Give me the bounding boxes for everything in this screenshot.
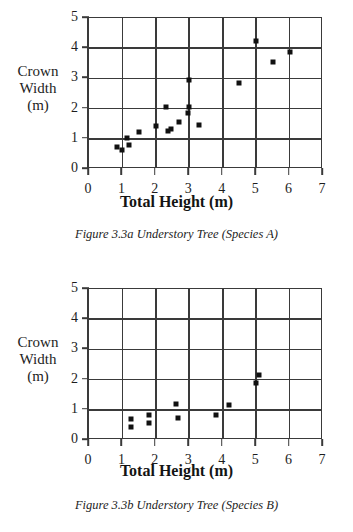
figure-3-3a: CrownWidth(m) 012345 01234567 Total Heig…	[0, 0, 353, 258]
gridline-vertical	[222, 289, 224, 438]
gridline-horizontal	[89, 318, 321, 320]
gridline-vertical	[255, 289, 257, 438]
x-axis-title-a: Total Height (m)	[0, 193, 353, 211]
data-point	[185, 111, 190, 116]
x-tick-mark	[288, 168, 290, 175]
x-tick-mark	[87, 439, 89, 446]
x-tick-mark	[121, 168, 123, 175]
data-point	[254, 38, 259, 43]
x-tick-mark	[321, 168, 323, 175]
x-tick-mark	[221, 168, 223, 175]
x-tick-mark	[87, 168, 89, 175]
x-axis-title-b: Total Height (m)	[0, 462, 353, 480]
x-tick-mark	[254, 168, 256, 175]
x-tick-mark	[254, 439, 256, 446]
data-point	[177, 119, 182, 124]
data-point	[125, 135, 130, 140]
gridline-horizontal	[89, 78, 321, 80]
y-tick-label: 0	[58, 160, 78, 176]
gridline-vertical	[188, 289, 190, 438]
figure-3-3b: CrownWidth(m) 012345 01234567 Total Heig…	[0, 266, 353, 532]
gridline-horizontal	[89, 349, 321, 351]
x-tick-mark	[154, 168, 156, 175]
data-point	[153, 123, 158, 128]
x-tick-mark	[187, 168, 189, 175]
gridline-vertical	[155, 18, 157, 167]
data-point	[270, 60, 275, 65]
data-point	[128, 425, 133, 430]
gridline-horizontal	[89, 47, 321, 49]
gridline-vertical	[122, 289, 124, 438]
data-point	[163, 105, 168, 110]
chart-a-plot-area: CrownWidth(m) 012345 01234567	[0, 0, 353, 215]
gridline-horizontal	[89, 409, 321, 411]
y-tick-label: 4	[58, 310, 78, 326]
x-tick-mark	[154, 439, 156, 446]
gridline-horizontal	[89, 108, 321, 110]
data-point	[254, 381, 259, 386]
y-tick-label: 3	[58, 69, 78, 85]
data-point	[287, 50, 292, 55]
data-point	[173, 402, 178, 407]
y-axis-spine	[87, 288, 89, 439]
data-point	[147, 413, 152, 418]
y-tick-label: 1	[58, 401, 78, 417]
gridline-vertical	[122, 18, 124, 167]
data-point	[227, 402, 232, 407]
data-point	[214, 412, 219, 417]
y-axis-spine	[87, 17, 89, 168]
x-tick-mark	[187, 439, 189, 446]
y-tick-label: 3	[58, 340, 78, 356]
chart-b-plot-area: CrownWidth(m) 012345 01234567	[0, 266, 353, 481]
y-tick-label: 0	[58, 431, 78, 447]
y-tick-label: 5	[58, 280, 78, 296]
gridline-vertical	[289, 289, 291, 438]
gridline-vertical	[289, 18, 291, 167]
data-point	[175, 415, 180, 420]
gridline-vertical	[188, 18, 190, 167]
data-point	[147, 421, 152, 426]
gridline-vertical	[155, 289, 157, 438]
y-tick-label: 4	[58, 39, 78, 55]
data-point	[168, 126, 173, 131]
data-point	[257, 373, 262, 378]
scatter-plot-b	[88, 288, 322, 439]
data-point	[197, 122, 202, 127]
data-point	[120, 148, 125, 153]
data-point	[187, 105, 192, 110]
y-tick-label: 1	[58, 130, 78, 146]
data-point	[127, 142, 132, 147]
x-tick-mark	[221, 439, 223, 446]
y-tick-label: 2	[58, 371, 78, 387]
data-point	[128, 416, 133, 421]
x-tick-mark	[121, 439, 123, 446]
data-point	[187, 77, 192, 82]
x-tick-mark	[288, 439, 290, 446]
y-tick-label: 5	[58, 9, 78, 25]
gridline-horizontal	[89, 138, 321, 140]
caption-a: Figure 3.3a Understory Tree (Species A)	[0, 227, 353, 242]
caption-b: Figure 3.3b Understory Tree (Species B)	[0, 498, 353, 513]
data-point	[137, 129, 142, 134]
data-point	[237, 80, 242, 85]
x-tick-mark	[321, 439, 323, 446]
y-tick-label: 2	[58, 100, 78, 116]
gridline-vertical	[222, 18, 224, 167]
gridline-horizontal	[89, 379, 321, 381]
scatter-plot-a	[88, 17, 322, 168]
